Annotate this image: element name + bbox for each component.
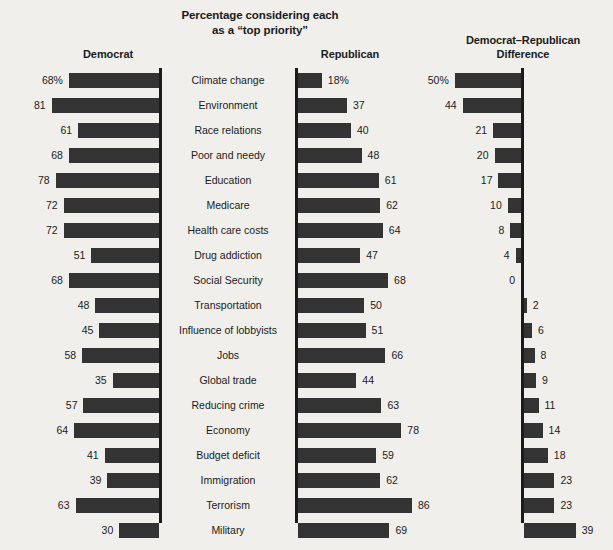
bar-republican	[298, 348, 385, 363]
value-label-republican: 68	[394, 273, 406, 288]
value-label-democrat: 58	[64, 348, 76, 363]
category-label: Drug addiction	[168, 248, 288, 263]
category-label: Environment	[168, 98, 288, 113]
chart-plot-area: 68%Climate change18%50%81Environment3744…	[0, 68, 613, 533]
value-label-difference: 6	[538, 323, 544, 338]
value-label-republican: 64	[389, 223, 401, 238]
chart-row: 78Education6117	[0, 168, 613, 193]
value-label-republican: 62	[386, 198, 398, 213]
bar-democrat	[64, 198, 159, 213]
value-label-democrat: 81	[34, 98, 46, 113]
chart-title-line-2: as a “top priority”	[150, 23, 370, 38]
value-label-republican: 62	[386, 473, 398, 488]
value-label-republican: 86	[418, 498, 430, 513]
bar-difference	[498, 173, 521, 188]
value-label-difference: 8	[541, 348, 547, 363]
column-header-difference-line-2: Difference	[497, 48, 550, 60]
value-label-democrat: 68	[51, 273, 63, 288]
chart-row: 72Medicare6210	[0, 193, 613, 218]
bar-republican	[298, 298, 364, 313]
column-header-difference: Democrat–Republican Difference	[443, 33, 603, 61]
category-label: Health care costs	[168, 223, 288, 238]
bar-democrat	[99, 323, 159, 338]
value-label-republican: 59	[382, 448, 394, 463]
bar-difference	[524, 298, 527, 313]
value-label-democrat: 64	[57, 423, 69, 438]
bar-democrat	[119, 523, 159, 538]
value-label-republican: 48	[368, 148, 380, 163]
value-label-republican: 40	[357, 123, 369, 138]
bar-difference	[524, 423, 543, 438]
bar-republican	[298, 123, 351, 138]
bar-democrat	[76, 498, 159, 513]
bar-democrat	[56, 173, 159, 188]
category-label: Influence of lobbyists	[168, 323, 288, 338]
value-label-difference: 9	[542, 373, 548, 388]
bar-republican	[298, 373, 356, 388]
value-label-democrat: 48	[78, 298, 90, 313]
bar-difference	[524, 498, 554, 513]
bar-difference	[508, 198, 521, 213]
bar-difference	[524, 348, 535, 363]
category-label: Budget deficit	[168, 448, 288, 463]
bar-republican	[298, 148, 362, 163]
chart-row: 30Military6939	[0, 518, 613, 543]
bar-republican	[298, 473, 380, 488]
value-label-difference: 50%	[428, 73, 449, 88]
chart-title: Percentage considering each as a “top pr…	[150, 8, 370, 38]
bar-difference	[510, 223, 521, 238]
bar-republican	[298, 273, 388, 288]
bar-difference	[524, 523, 576, 538]
value-label-difference: 17	[481, 173, 493, 188]
chart-title-line-1: Percentage considering each	[150, 8, 370, 23]
chart-row: 72Health care costs648	[0, 218, 613, 243]
bar-difference	[524, 323, 532, 338]
category-label: Transportation	[168, 298, 288, 313]
value-label-difference: 39	[582, 523, 594, 538]
column-header-democrat: Democrat	[48, 47, 168, 61]
chart-row: 39Immigration6223	[0, 468, 613, 493]
chart-row: 61Race relations4021	[0, 118, 613, 143]
bar-republican	[298, 423, 401, 438]
bar-republican	[298, 398, 381, 413]
value-label-democrat: 63	[58, 498, 70, 513]
chart-row: 68Social Security680	[0, 268, 613, 293]
value-label-republican: 66	[391, 348, 403, 363]
bar-democrat	[74, 423, 159, 438]
chart-row: 58Jobs668	[0, 343, 613, 368]
bar-democrat	[83, 398, 159, 413]
value-label-difference: 0	[509, 273, 515, 288]
bar-democrat	[107, 473, 159, 488]
value-label-republican: 69	[395, 523, 407, 538]
value-label-democrat: 35	[95, 373, 107, 388]
bar-democrat	[78, 123, 159, 138]
bar-difference	[495, 148, 522, 163]
value-label-democrat: 51	[74, 248, 86, 263]
bar-difference	[524, 473, 554, 488]
category-label: Jobs	[168, 348, 288, 363]
bar-republican	[298, 498, 412, 513]
bar-republican	[298, 223, 383, 238]
value-label-difference: 11	[545, 398, 556, 413]
value-label-difference: 23	[560, 473, 572, 488]
chart-row: 48Transportation502	[0, 293, 613, 318]
bar-republican	[298, 448, 376, 463]
value-label-difference: 23	[560, 498, 572, 513]
value-label-republican: 37	[353, 98, 365, 113]
bar-democrat	[95, 298, 159, 313]
value-label-republican: 18%	[328, 73, 349, 88]
value-label-republican: 44	[362, 373, 374, 388]
bar-democrat	[69, 273, 159, 288]
category-label: Medicare	[168, 198, 288, 213]
category-label: Terrorism	[168, 498, 288, 513]
bar-republican	[298, 523, 389, 538]
chart-row: 64Economy7814	[0, 418, 613, 443]
category-label: Education	[168, 173, 288, 188]
chart-row: 68%Climate change18%50%	[0, 68, 613, 93]
bar-republican	[298, 323, 366, 338]
category-label: Immigration	[168, 473, 288, 488]
bar-difference	[455, 73, 521, 88]
value-label-difference: 20	[477, 148, 489, 163]
bar-democrat	[91, 248, 159, 263]
bar-democrat	[64, 223, 159, 238]
